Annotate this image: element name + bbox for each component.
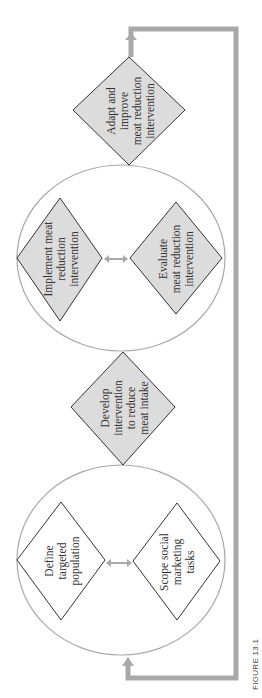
implement-label-1: Implement meat xyxy=(42,221,55,297)
define-label-3: population xyxy=(69,536,82,585)
arrowhead-icon xyxy=(122,657,134,666)
develop-label-2: intervention xyxy=(112,380,124,436)
implement-evaluate-bidirectional-arrow xyxy=(104,255,128,263)
evaluate-label-3: intervention xyxy=(183,231,195,287)
implement-label-3: intervention xyxy=(68,231,80,287)
define-scope-bidirectional-arrow xyxy=(106,559,132,567)
evaluate-label-1: Evaluate xyxy=(157,239,169,279)
develop-label-4: meat intake xyxy=(138,381,150,434)
scope-label-1: Scope social xyxy=(158,533,171,591)
flow-diagram: Adapt and improve meat reduction interve… xyxy=(0,0,262,698)
develop-label-1: Develop xyxy=(99,388,112,427)
adapt-label-3: meat reduction xyxy=(131,76,143,145)
scope-label-3: tasks xyxy=(184,550,196,574)
adapt-label-4: intervention xyxy=(144,83,156,139)
figure-caption: FIGURE 13.1 xyxy=(251,638,260,690)
define-label-1: Define xyxy=(43,545,55,576)
adapt-label-1: Adapt and xyxy=(105,87,118,135)
define-label-2: targeted xyxy=(56,542,69,579)
develop-label-3: to reduce xyxy=(125,387,137,429)
scope-node: Scope social marketing tasks xyxy=(133,503,220,620)
implement-label-2: reduction xyxy=(55,237,67,281)
adapt-label-2: improve xyxy=(118,92,131,130)
scope-label-2: marketing xyxy=(171,538,184,585)
develop-node: Develop intervention to reduce meat inta… xyxy=(71,352,175,465)
adapt-node: Adapt and improve meat reduction interve… xyxy=(73,57,185,165)
evaluate-label-2: meat reduction xyxy=(170,224,182,293)
evaluate-node: Evaluate meat reduction intervention xyxy=(130,202,222,314)
arrowhead-icon xyxy=(125,33,137,40)
define-node: Define targeted population xyxy=(17,502,105,620)
